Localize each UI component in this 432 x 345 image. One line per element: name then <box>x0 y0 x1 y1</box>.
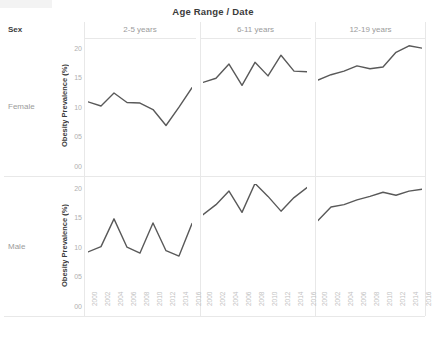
column-header-title: Age Range / Date <box>0 6 426 17</box>
line-chart-panel[interactable] <box>88 44 192 168</box>
y-axis-tick-label: 20 <box>66 185 82 192</box>
panel-divider-vertical <box>84 22 85 316</box>
line-chart-panel[interactable] <box>203 44 307 168</box>
row-header-title: Sex <box>8 25 22 34</box>
series-line-svg <box>203 44 307 168</box>
panel-divider-vertical <box>200 22 201 316</box>
column-header-12-19-years: 12-19 years <box>315 22 426 39</box>
y-axis-tick-label: 10 <box>66 244 82 251</box>
y-axis-tick-label: 00 <box>66 303 82 310</box>
y-axis-tick-label: 15 <box>66 214 82 221</box>
row-label-female: Female <box>8 102 35 111</box>
series-line-svg <box>88 44 192 168</box>
y-axis-tick-label: 05 <box>66 133 82 140</box>
series-line <box>318 189 422 220</box>
y-axis-tick-label: 10 <box>66 104 82 111</box>
line-chart-panel[interactable] <box>318 184 422 308</box>
panel-divider-vertical <box>425 22 426 316</box>
panel-divider-horizontal <box>4 176 425 177</box>
series-line-svg <box>203 184 307 308</box>
column-header-6-11-years: 6-11 years <box>200 22 311 39</box>
line-chart-panel[interactable] <box>88 184 192 308</box>
series-line <box>88 219 192 256</box>
panel-divider-horizontal <box>4 316 425 317</box>
series-line <box>203 184 307 215</box>
series-line <box>318 46 422 80</box>
y-axis-tick-label: 20 <box>66 45 82 52</box>
line-chart-panel[interactable] <box>318 44 422 168</box>
x-axis-tick-label: 2016 <box>195 292 202 306</box>
y-axis-tick-label: 05 <box>66 273 82 280</box>
x-axis-tick-label: 2016 <box>425 292 432 306</box>
y-axis-tick-label: 00 <box>66 163 82 170</box>
y-axis-tick-label: 15 <box>66 74 82 81</box>
column-header-2-5-years: 2-5 years <box>84 22 196 39</box>
series-line-svg <box>88 184 192 308</box>
x-axis-tick-label: 2016 <box>310 292 317 306</box>
row-label-male: Male <box>8 242 25 251</box>
series-line-svg <box>318 44 422 168</box>
panel-divider-vertical <box>315 22 316 316</box>
series-line <box>203 55 307 85</box>
line-chart-panel[interactable] <box>203 184 307 308</box>
series-line <box>88 88 192 126</box>
series-line-svg <box>318 184 422 308</box>
